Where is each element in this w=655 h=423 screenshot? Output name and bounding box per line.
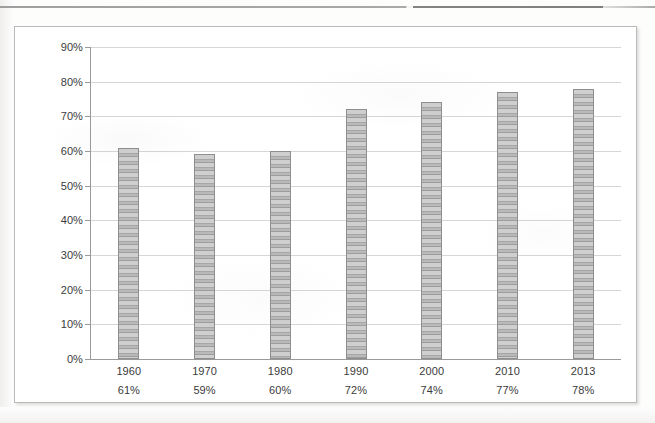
x-axis-tick-label: 1980 — [245, 365, 315, 377]
bar — [270, 151, 291, 359]
gridline — [91, 82, 621, 83]
x-axis-tick-label: 2000 — [397, 365, 467, 377]
y-axis-tick-label: 40% — [21, 214, 83, 226]
x-axis-tick-label: 2010 — [472, 365, 542, 377]
y-axis-tick-label: 90% — [21, 41, 83, 53]
y-axis-tick-label: 80% — [21, 76, 83, 88]
gridline — [91, 47, 621, 48]
bar-chart: 0%10%20%30%40%50%60%70%80%90% 196061%197… — [15, 27, 636, 402]
data-value-label: 77% — [472, 384, 542, 396]
page-top-rule — [0, 6, 655, 8]
y-axis-tick-label: 50% — [21, 180, 83, 192]
y-axis-tick-label: 10% — [21, 318, 83, 330]
x-axis-baseline — [91, 359, 621, 360]
bar — [497, 92, 518, 359]
data-value-label: 78% — [548, 384, 618, 396]
page-bottom-edge-shadow — [0, 407, 655, 423]
y-axis-tick-label: 60% — [21, 145, 83, 157]
x-axis-tick-label: 1970 — [170, 365, 240, 377]
x-axis-tick-label: 2013 — [548, 365, 618, 377]
data-value-label: 72% — [321, 384, 391, 396]
y-axis-tick-label: 0% — [21, 353, 83, 365]
data-value-label: 60% — [245, 384, 315, 396]
data-value-label: 59% — [170, 384, 240, 396]
y-axis-tick-label: 30% — [21, 249, 83, 261]
x-axis-tick-label: 1960 — [94, 365, 164, 377]
bar — [421, 102, 442, 359]
plot-area — [91, 47, 621, 359]
bar — [573, 89, 594, 359]
bar — [346, 109, 367, 359]
data-value-label: 74% — [397, 384, 467, 396]
bar — [194, 154, 215, 359]
chart-figure-frame: 0%10%20%30%40%50%60%70%80%90% 196061%197… — [14, 26, 637, 403]
x-axis-tick-label: 1990 — [321, 365, 391, 377]
page-left-edge-shadow — [0, 0, 14, 423]
data-value-label: 61% — [94, 384, 164, 396]
y-axis-tick-label: 70% — [21, 110, 83, 122]
bar — [118, 148, 139, 359]
y-axis-tick-label: 20% — [21, 284, 83, 296]
y-axis-labels: 0%10%20%30%40%50%60%70%80%90% — [15, 27, 83, 404]
